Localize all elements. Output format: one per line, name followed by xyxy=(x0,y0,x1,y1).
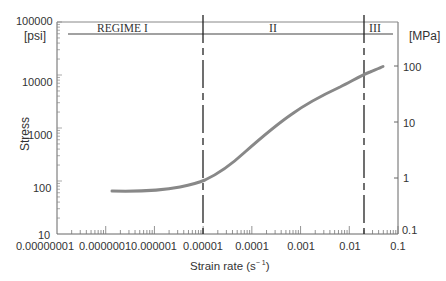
x-tick-1e-6: 0.000001 xyxy=(131,240,177,252)
right-axis-ticks xyxy=(394,66,398,178)
right-tick-0.1: 0.1 xyxy=(402,224,417,236)
x-axis-label: Strain rate (s− 1) xyxy=(190,257,270,272)
y-axis-label: Stress xyxy=(19,117,31,151)
right-tick-100: 100 xyxy=(403,61,421,73)
regime-2-label: II xyxy=(269,22,277,34)
regime-3-label: III xyxy=(369,22,381,34)
y-tick-100000: 100000 xyxy=(16,15,53,27)
x-tick-1e-5: 0.00001 xyxy=(183,240,223,252)
x-axis-label-close: ) xyxy=(266,260,270,272)
x-axis-label-text: Strain rate (s xyxy=(190,260,256,272)
x-axis-label-exponent: − 1 xyxy=(256,259,266,266)
minor-ticks xyxy=(57,22,398,234)
x-tick-1e-2: 0.01 xyxy=(339,240,360,252)
plot-frame xyxy=(57,22,398,234)
x-tick-1e-8: 0.00000001 xyxy=(16,240,74,252)
x-tick-1e-4: 0.0001 xyxy=(235,240,269,252)
right-tick-10: 10 xyxy=(403,117,415,129)
regime-1-label: REGIME I xyxy=(97,22,148,34)
chart-canvas xyxy=(0,0,446,281)
y-tick-10000: 10000 xyxy=(22,76,53,88)
stress-curve xyxy=(112,67,383,192)
left-unit-label: [psi] xyxy=(24,30,46,42)
y-tick-100: 100 xyxy=(33,182,51,194)
right-unit-label: [MPa] xyxy=(409,30,440,42)
x-tick-1e-3: 0.001 xyxy=(287,240,315,252)
x-tick-1e-1: 0.1 xyxy=(390,240,405,252)
x-tick-1e-7: 0.0000001 xyxy=(79,240,131,252)
right-tick-1: 1 xyxy=(403,172,409,184)
